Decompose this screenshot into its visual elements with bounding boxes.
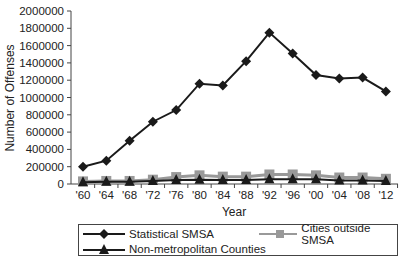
y-tick-label: 600000 [26,126,64,138]
legend-label: Cities outside SMSA [301,222,397,246]
x-tick-label: '60 [76,189,91,201]
y-tick-label: 400000 [26,143,64,155]
legend-item-cities-outside-smsa: Cities outside SMSA [259,226,397,241]
square-marker-icon [259,228,297,240]
y-axis-title: Number of Offenses [3,44,17,151]
x-tick-label: '72 [145,189,160,201]
x-tick-label: '04 [332,189,348,201]
y-tick-label: 2000000 [19,5,64,17]
y-tick-label: 1400000 [19,57,64,69]
x-tick-label: '68 [122,189,137,201]
y-tick-label: 1200000 [19,74,64,86]
legend-item-non-metropolitan-counties: Non-metropolitan Counties [83,241,266,256]
x-tick-label: '00 [309,189,324,201]
x-tick-label: '64 [99,189,115,201]
x-tick-label: '88 [239,189,254,201]
x-tick-label: '84 [215,189,231,201]
line-chart: 0200000400000600000800000100000012000001… [0,0,406,224]
series-statistical-smsa [78,28,391,172]
y-tick-label: 800000 [26,109,64,121]
y-tick-label: 1000000 [19,92,64,104]
x-axis-title: Year [222,205,246,219]
x-tick-label: '76 [169,189,184,201]
chart-legend: Statistical SMSA Cities outside SMSA Non… [78,224,398,256]
x-tick-label: '92 [262,189,277,201]
diamond-marker-icon [83,228,125,240]
y-tick-label: 0 [58,178,64,190]
x-tick-label: '96 [285,189,300,201]
triangle-marker-icon [83,243,125,255]
y-tick-label: 1800000 [19,22,64,34]
legend-item-statistical-smsa: Statistical SMSA [83,226,214,241]
x-tick-label: '12 [378,189,393,201]
x-tick-label: '08 [355,189,370,201]
y-tick-label: 1600000 [19,40,64,52]
legend-label: Non-metropolitan Counties [129,243,266,255]
y-tick-label: 200000 [26,161,64,173]
legend-label: Statistical SMSA [129,228,214,240]
x-tick-label: '80 [192,189,207,201]
